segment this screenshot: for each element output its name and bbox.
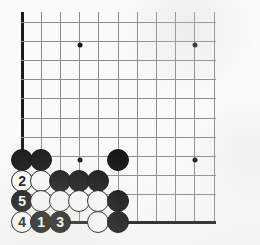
grid-line-horizontal <box>21 41 216 42</box>
stone-black-n <box>107 211 129 233</box>
star-point-upper-left <box>77 43 82 48</box>
star-point-lower-left <box>77 158 82 163</box>
grid-line-horizontal <box>21 137 216 138</box>
grid-line-horizontal <box>21 79 216 80</box>
stone-black-c <box>107 149 129 171</box>
stone-move-number: 3 <box>56 215 63 229</box>
grid-line-horizontal <box>21 98 216 99</box>
stone-black-l <box>107 190 129 212</box>
star-point-lower-right <box>192 158 197 163</box>
stone-black-b <box>30 149 52 171</box>
stone-move-number: 1 <box>37 215 44 229</box>
grid-line-horizontal <box>21 60 216 61</box>
stone-black-move-3: 3 <box>49 211 71 233</box>
grid-line-horizontal <box>21 118 216 119</box>
stone-move-number: 2 <box>18 174 25 188</box>
stone-move-number: 4 <box>18 215 25 229</box>
stone-white-m <box>87 211 109 233</box>
stone-move-number: 5 <box>18 194 25 208</box>
grid-line-horizontal <box>21 22 216 23</box>
stone-black-g <box>87 170 109 192</box>
star-point-upper-right <box>192 43 197 48</box>
stone-white-k <box>87 190 109 212</box>
go-board-diagram: 25413 <box>0 0 260 245</box>
